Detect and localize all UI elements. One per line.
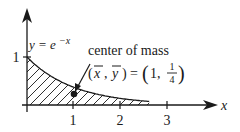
curve-label-text: y = e bbox=[27, 37, 56, 52]
x-tick-label-2: 2 bbox=[117, 113, 124, 128]
svg-text:): ) bbox=[122, 66, 127, 82]
svg-text:,: , bbox=[104, 66, 108, 81]
svg-text:1,: 1, bbox=[150, 66, 161, 81]
curve-label: y = e −x bbox=[27, 35, 71, 52]
center-of-mass-point bbox=[71, 91, 78, 98]
y-tick-label-1: 1 bbox=[13, 50, 20, 65]
svg-text:1: 1 bbox=[170, 61, 175, 72]
svg-text:): ) bbox=[178, 62, 185, 85]
x-axis-label: x bbox=[220, 98, 228, 113]
x-tick-label-1: 1 bbox=[70, 113, 77, 128]
center-of-mass-formula: ( x , y ) = ( 1, 1 4 ) bbox=[88, 61, 185, 85]
center-of-mass-label: center of mass bbox=[88, 43, 169, 58]
x-tick-label-3: 3 bbox=[164, 113, 171, 128]
curve-label-exponent: −x bbox=[59, 35, 71, 46]
formula-x-bar: x bbox=[93, 66, 101, 81]
shaded-region bbox=[0, 55, 240, 105]
svg-text:(: ( bbox=[142, 62, 149, 85]
center-of-mass-diagram: 1 2 3 1 x y = e −x center of mass ( x , … bbox=[0, 0, 240, 132]
formula-y-bar: y bbox=[110, 66, 119, 81]
svg-text:(: ( bbox=[88, 66, 93, 82]
svg-text:4: 4 bbox=[170, 74, 175, 85]
svg-text:=: = bbox=[130, 66, 138, 81]
